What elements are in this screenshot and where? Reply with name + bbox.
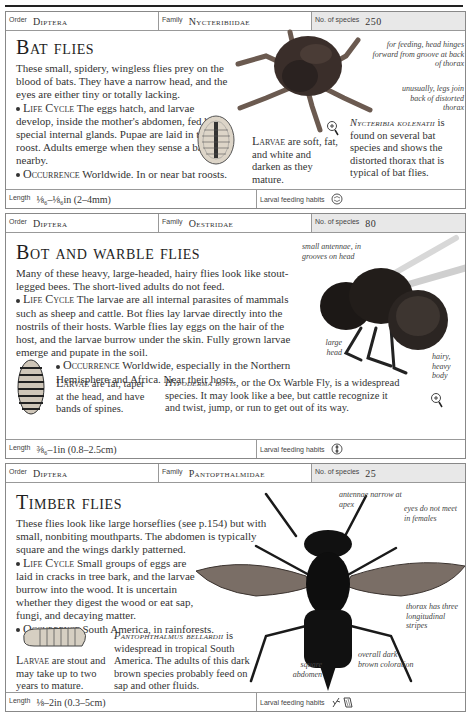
annotation-small-antennae: small antennae, in grooves on head [302,242,382,261]
order-value: Diptera [33,468,68,479]
entry-title: Bot and warble flies [16,241,200,264]
larvae-heading: Larvae [16,653,49,667]
larval-feeding-cell: Larval feeding habits [257,693,465,711]
life-cycle-heading: Life Cycle [23,556,74,570]
species-count: 25 [365,468,376,479]
intro-text: Many of these heavy, large-headed, hairy… [16,267,301,293]
species-label: No. of species [315,218,359,225]
family-label: Family [162,16,183,23]
larvae-caption: Larvae are soft, fat, and white and dark… [252,135,342,186]
entry-title: Timber flies [16,491,122,514]
family-value: Oestridae [189,218,234,229]
length-cell: Length ⅛–2in (0.3–5cm) [6,693,257,711]
occurrence-heading: Occurrence [63,358,120,372]
occurrence-heading: Occurrence [23,167,80,181]
entry-footer: Length ⅛₆–⅛₆in (2–4mm) Larval feeding ha… [6,189,465,208]
entry-footer: Length ⅛–2in (0.3–5cm) Larval feeding ha… [6,692,465,711]
annotation-large-head: large head [312,338,342,357]
life-cycle-heading: Life Cycle [23,101,74,115]
specimen-caption: Hypoderma bovis, or the Ox Warble Fly, i… [165,377,405,415]
larval-feeding-cell: Larval feeding habits [257,440,465,458]
larva-illustration [16,358,46,416]
length-label: Length [9,697,30,704]
entry-footer: Length ⅜₆–1in (0.8–2.5cm) Larval feeding… [6,439,465,458]
larvae-caption: Larvae are stout and may take up to two … [16,654,111,693]
species-label: No. of species [315,468,359,475]
annotation-eyes-do-not-meet: eyes do not meet in females [404,504,460,523]
annotation-thorax-stripes: thorax has three longitudinal stripes [406,602,462,631]
species-count: 80 [365,218,376,229]
larva-illustration [20,624,90,650]
annotation-antennae-narrow: antennae narrow at apex [339,490,404,509]
internal-parasite-icon [331,443,343,455]
species-label: No. of species [315,16,359,23]
length-label: Length [9,194,30,201]
entry-timber-flies: Order Diptera Family Pantopthalmidae No.… [5,463,466,712]
entry-body: Many of these heavy, large-headed, hairy… [16,267,301,386]
length-value: ⅛₆–⅛₆in (2–4mm) [36,194,110,205]
order-cell: Order Diptera [6,214,159,232]
bullet-icon [16,107,20,111]
family-label: Family [162,468,183,475]
length-cell: Length ⅜₆–1in (0.8–2.5cm) [6,440,257,458]
larval-feeding-label: Larval feeding habits [260,446,325,453]
entry-header: Order Diptera Family Pantopthalmidae No.… [6,464,465,483]
family-label: Family [162,218,183,225]
entry-title: Bat flies [16,36,94,59]
order-label: Order [9,218,27,225]
life-cycle-heading: Life Cycle [23,292,74,306]
larvae-heading: Larvae [56,376,89,390]
larvae-heading: Larvae [252,134,285,148]
larval-feeding-label: Larval feeding habits [260,699,325,706]
annotation-square-abdomen: square abdomen [280,660,322,679]
entry-bot-warble-flies: Order Diptera Family Oestridae No. of sp… [5,213,466,459]
length-value: ⅜₆–1in (0.8–2.5cm) [36,444,116,455]
intro-text: These small, spidery, wingless flies pre… [16,62,231,102]
family-value: Pantopthalmidae [189,468,265,479]
order-cell: Order Diptera [6,12,159,30]
larval-feeding-cell: Larval feeding habits [257,190,465,208]
annotation-head-hinges: for feeding, head hinges forward from gr… [372,40,464,69]
length-value: ⅛–2in (0.3–5cm) [36,697,105,708]
annotation-legs-join: unusually, legs join back of distorted t… [392,84,464,113]
bullet-icon [16,173,20,177]
family-value: Nycteribiidae [189,16,250,27]
specimen-name: Hypoderma bovis [165,377,236,388]
plant-wood-icon [331,696,355,708]
length-cell: Length ⅛₆–⅛₆in (2–4mm) [6,190,257,208]
magnifier-icon [326,120,344,140]
occurrence-text: Worldwide. In or near bat roosts. [82,168,227,180]
bullet-icon [16,562,20,566]
bullet-icon [56,365,60,369]
order-value: Diptera [33,218,68,229]
parasite-icon [331,193,343,205]
species-cell: No. of species 25 [312,464,465,482]
larval-feeding-label: Larval feeding habits [260,196,325,203]
magnifier-icon [430,392,448,412]
order-cell: Order Diptera [6,464,159,482]
annotation-hairy-body: hairy, heavy body [432,352,466,381]
family-cell: Family Oestridae [159,214,312,232]
species-count: 250 [365,16,381,27]
order-value: Diptera [33,16,68,27]
annotation-overall-coloration: overall dark brown coloration [358,650,414,669]
length-label: Length [9,444,30,451]
family-cell: Family Pantopthalmidae [159,464,312,482]
larvae-caption: Larvae are fat, taper at the head, and h… [56,377,151,416]
bullet-icon [16,299,20,303]
order-label: Order [9,468,27,475]
order-label: Order [9,16,27,23]
entry-bat-flies: Order Diptera Family Nycteribiidae No. o… [5,11,466,209]
page-top-rule [5,5,463,7]
bat-fly-illustration [228,26,378,136]
